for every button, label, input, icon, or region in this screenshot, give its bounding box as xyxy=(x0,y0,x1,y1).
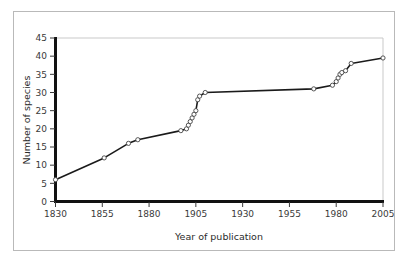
y-tick-label: 35 xyxy=(36,70,47,80)
data-point-marker xyxy=(102,156,106,160)
data-point-marker xyxy=(179,129,183,133)
data-point-marker xyxy=(203,90,207,94)
x-tick-label: 2005 xyxy=(372,209,395,219)
data-point-marker xyxy=(330,83,334,87)
axes-lines xyxy=(54,37,384,202)
x-tick-label: 1905 xyxy=(184,209,207,219)
y-tick-label: 0 xyxy=(41,197,47,207)
y-tick-label: 15 xyxy=(36,142,47,152)
data-point-marker xyxy=(198,94,202,98)
x-tick-label: 1930 xyxy=(231,209,254,219)
data-point-marker xyxy=(343,69,347,73)
series-line-cumulative-species xyxy=(56,58,384,180)
data-point-marker xyxy=(136,138,140,142)
y-axis-title: Number of species xyxy=(21,76,32,165)
y-tick-label: 45 xyxy=(36,33,47,43)
data-point-marker xyxy=(349,61,353,65)
data-point-marker xyxy=(312,87,316,91)
plot-frame-lines xyxy=(55,38,383,201)
line-chart: 051015202530354045 183018551880190519301… xyxy=(0,0,413,261)
x-tick-label: 1955 xyxy=(278,209,301,219)
y-axis-tick-labels: 051015202530354045 xyxy=(36,33,48,207)
x-axis-title: Year of publication xyxy=(174,231,263,242)
series-markers-cumulative-species xyxy=(53,56,385,182)
x-axis-tick-labels: 18301855188019051930195519802005 xyxy=(44,209,394,219)
y-tick-label: 10 xyxy=(36,160,48,170)
y-tick-label: 40 xyxy=(36,51,48,61)
y-tick-label: 5 xyxy=(41,179,47,189)
y-tick-label: 30 xyxy=(36,88,48,98)
data-point-marker xyxy=(53,178,57,182)
data-point-marker xyxy=(126,141,130,145)
data-point-marker xyxy=(381,56,385,60)
data-point-marker xyxy=(194,109,198,113)
x-tick-label: 1830 xyxy=(44,209,67,219)
x-tick-label: 1855 xyxy=(91,209,114,219)
x-tick-label: 1880 xyxy=(138,209,161,219)
x-tick-label: 1980 xyxy=(325,209,348,219)
y-tick-label: 20 xyxy=(36,124,48,134)
y-tick-label: 25 xyxy=(36,106,47,116)
